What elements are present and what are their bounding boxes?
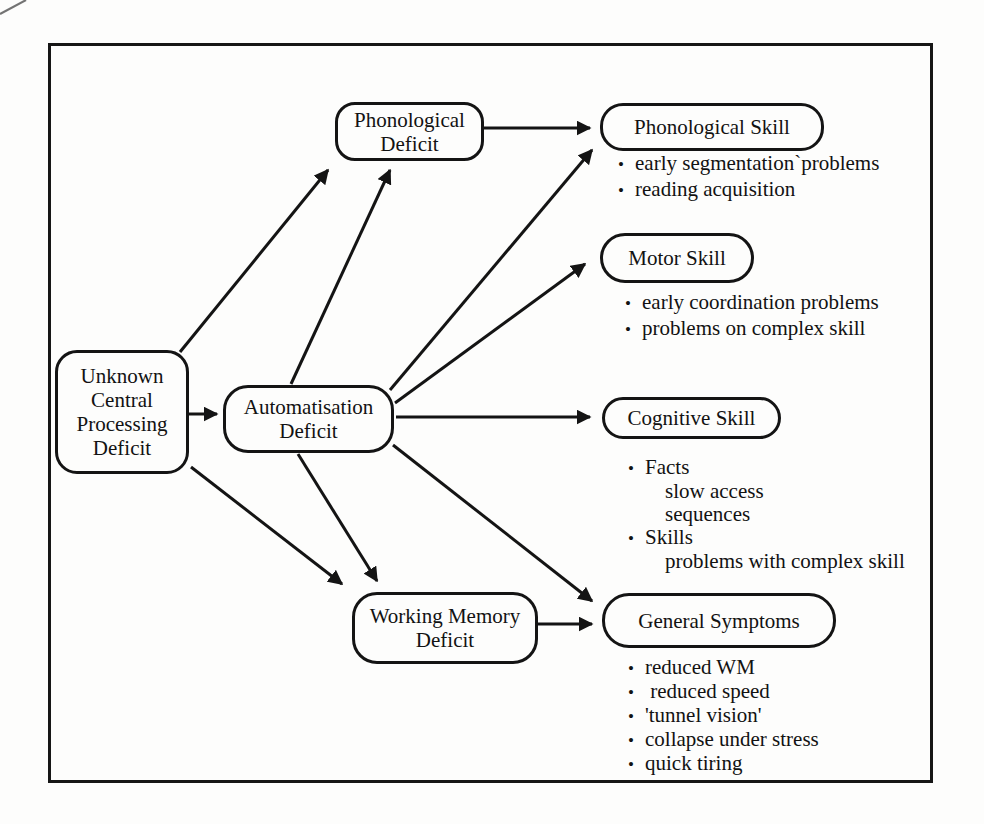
bullet-glyph: •	[618, 178, 635, 203]
list-item-text: quick tiring	[645, 752, 742, 775]
node-label-line: Deficit	[93, 436, 151, 460]
node-label-line: Deficit	[380, 132, 438, 156]
list-item: • reduced WM	[628, 656, 819, 680]
list-item: • reduced speed	[628, 680, 819, 704]
node-motor-skill: Motor Skill	[600, 233, 754, 283]
node-label-line: Automatisation	[244, 395, 374, 419]
list-item: • early coordination problems	[625, 290, 879, 316]
bullet-glyph: •	[628, 457, 645, 480]
list-item-text: early coordination problems	[642, 290, 879, 315]
node-label-line: Deficit	[279, 419, 337, 443]
list-item-text: problems on complex skill	[642, 316, 865, 341]
list-item-text: sequences	[665, 503, 750, 526]
bullet-glyph: •	[628, 753, 645, 776]
node-label-line: Phonological	[354, 108, 465, 132]
list-item-text: Facts	[645, 456, 689, 479]
node-label: Phonological Skill	[634, 115, 790, 139]
node-label: General Symptoms	[638, 609, 800, 633]
node-label-line: Unknown	[81, 364, 164, 388]
bullet-glyph: •	[628, 657, 645, 680]
motor-skill-bullet-list: • early coordination problems • problems…	[625, 290, 879, 342]
arrow-auto-to-wm-deficit	[298, 454, 377, 581]
node-label-line: Processing	[77, 412, 168, 436]
list-item-text: Skills	[645, 526, 693, 549]
node-phonological-deficit: Phonological Deficit	[335, 102, 484, 161]
node-label: Cognitive Skill	[628, 406, 756, 430]
node-phonological-skill: Phonological Skill	[600, 103, 824, 151]
list-subitem: problems with complex skill	[628, 550, 905, 573]
bullet-glyph: •	[625, 317, 642, 342]
cognitive-skill-bullet-list: • Facts slow access sequences • Skills p…	[628, 456, 905, 573]
node-label: Motor Skill	[628, 246, 725, 270]
node-automatisation-deficit: Automatisation Deficit	[223, 385, 394, 453]
list-item: • Skills	[628, 526, 905, 550]
list-item: • early segmentation`problems	[618, 151, 879, 177]
list-item-text: collapse under stress	[645, 728, 819, 751]
list-item: • 'tunnel vision'	[628, 704, 819, 728]
arrow-ucpd-to-wm-deficit	[191, 467, 342, 584]
bullet-glyph: •	[628, 729, 645, 752]
node-label-line: Central	[91, 388, 153, 412]
bullet-glyph: •	[628, 705, 645, 728]
node-label-line: Deficit	[416, 628, 474, 652]
node-general-symptoms: General Symptoms	[602, 593, 836, 648]
list-item: • Facts	[628, 456, 905, 480]
bullet-glyph: •	[618, 152, 635, 177]
diagram-canvas: Unknown Central Processing Deficit Phono…	[0, 0, 984, 824]
list-subitem: slow access	[628, 480, 905, 503]
list-item: • problems on complex skill	[625, 316, 879, 342]
list-item-text: 'tunnel vision'	[645, 704, 762, 727]
node-cognitive-skill: Cognitive Skill	[602, 397, 781, 439]
scan-artifact-line	[0, 0, 26, 14]
node-label-line: Working Memory	[370, 604, 521, 628]
arrow-auto-to-phon-deficit	[291, 170, 390, 384]
list-item-text: slow access	[665, 480, 764, 503]
list-subitem: sequences	[628, 503, 905, 526]
list-item: • reading acquisition	[618, 177, 879, 203]
arrow-auto-to-motor-skill	[395, 264, 585, 403]
bullet-glyph: •	[625, 291, 642, 316]
list-item-text: reduced speed	[645, 680, 770, 703]
arrow-auto-to-general-symptoms	[393, 445, 592, 601]
arrow-ucpd-to-phon-deficit	[180, 170, 328, 352]
node-unknown-central-processing-deficit: Unknown Central Processing Deficit	[55, 350, 189, 474]
general-symptoms-bullet-list: • reduced WM • reduced speed • 'tunnel v…	[628, 656, 819, 776]
list-item-text: problems with complex skill	[665, 550, 905, 573]
arrow-auto-to-phon-skill	[390, 150, 592, 390]
bullet-glyph: •	[628, 527, 645, 550]
bullet-glyph: •	[628, 681, 645, 704]
phonological-skill-bullet-list: • early segmentation`problems • reading …	[618, 151, 879, 203]
list-item: • collapse under stress	[628, 728, 819, 752]
list-item-text: reduced WM	[645, 656, 755, 679]
list-item-text: reading acquisition	[635, 177, 795, 202]
list-item-text: early segmentation`problems	[635, 151, 879, 176]
node-working-memory-deficit: Working Memory Deficit	[352, 592, 538, 664]
list-item: • quick tiring	[628, 752, 819, 776]
